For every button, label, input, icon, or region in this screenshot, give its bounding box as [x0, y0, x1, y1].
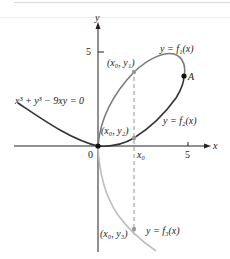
f1-label: y = f₁(x)	[159, 43, 194, 55]
f2-label: y = f₂(x)	[162, 115, 197, 127]
point-x0-y1	[132, 70, 136, 74]
point-A	[181, 73, 186, 78]
x-axis-label: x	[212, 140, 218, 151]
y-axis-arrow-icon	[96, 22, 101, 29]
point-x0-y3	[132, 227, 136, 231]
x-tick-label: 5	[185, 149, 190, 160]
folium-diagram: y x 5 5 0 x₀ x³ + y³ − 9xy = 0 y = f₁(x)…	[0, 0, 230, 259]
origin-point	[95, 143, 100, 148]
origin-label: 0	[88, 149, 93, 160]
curve-f2-left	[18, 103, 98, 146]
x-axis-arrow-icon	[204, 144, 211, 149]
x0-label: x₀	[136, 149, 145, 160]
point-x0-y2	[132, 136, 136, 140]
point-x0-y1-label: (x₀, y₁)	[107, 57, 135, 69]
y-tick-label: 5	[86, 46, 91, 57]
y-axis-label: y	[94, 12, 100, 23]
equation-label: x³ + y³ − 9xy = 0	[14, 95, 84, 106]
f3-label: y = f₃(x)	[145, 225, 180, 237]
point-A-label: A	[187, 71, 195, 82]
point-x0-y2-label: (x₀, y₂)	[101, 125, 129, 137]
point-x0-y3-label: (x₀, y₃)	[100, 228, 128, 240]
